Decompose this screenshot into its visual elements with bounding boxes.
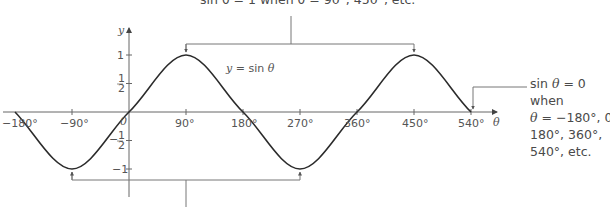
right-note-line2: θ = −180°, 0°, xyxy=(530,109,610,126)
right-annotation-pointer xyxy=(473,87,527,109)
y-tick-neg-half-minus: − xyxy=(109,133,118,146)
right-note-line1: sin θ = 0 when xyxy=(530,75,610,109)
x-tick-180: 180° xyxy=(231,117,258,130)
y-tick-neg-1: −1 xyxy=(112,163,128,176)
x-tick-m180: −180° xyxy=(2,117,38,130)
x-tick-540: 540° xyxy=(458,117,485,130)
right-note: sin θ = 0 when θ = −180°, 0°, 180°, 360°… xyxy=(530,75,610,160)
top-annotation-bracket xyxy=(186,16,414,52)
x-tick-0: 0 xyxy=(120,115,127,128)
x-axis-label: θ xyxy=(493,116,500,129)
curve-label: y = sin θ xyxy=(225,62,275,75)
right-note-line4: 540°, etc. xyxy=(530,143,610,160)
bottom-annotation-bracket xyxy=(72,172,300,207)
x-tick-360: 360° xyxy=(344,117,371,130)
x-tick-270: 270° xyxy=(287,117,314,130)
y-tick-neg-half-den: 2 xyxy=(118,139,125,152)
sine-graph: y 1 1 2 − 1 2 −1 −180° −90° 0 90° 180° 2… xyxy=(0,0,610,213)
x-tick-90: 90° xyxy=(175,117,195,130)
x-tick-450: 450° xyxy=(402,117,429,130)
y-tick-1: 1 xyxy=(117,49,124,62)
right-note-line3: 180°, 360°, xyxy=(530,126,610,143)
x-tick-m90: −90° xyxy=(60,117,89,130)
y-axis-label: y xyxy=(117,24,125,37)
top-note: sin θ = 1 when θ = 90°, 450°, etc. xyxy=(200,0,415,8)
y-tick-half-den: 2 xyxy=(118,82,125,95)
